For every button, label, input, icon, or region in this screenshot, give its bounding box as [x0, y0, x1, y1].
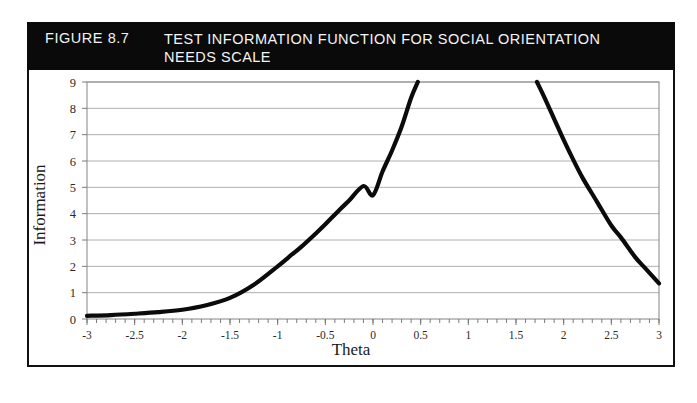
curve-path [87, 82, 418, 316]
gridlines-group [87, 82, 659, 293]
x-tick-label: 2 [561, 329, 567, 341]
figure-container: FIGURE 8.7 TEST INFORMATION FUNCTION FOR… [27, 22, 675, 367]
y-tick-label: 4 [70, 207, 77, 221]
x-tick-labels: -3-2.5-2-1.5-1-0.500.511.522.53 [82, 329, 662, 341]
x-tick-label: 2.5 [604, 329, 619, 341]
x-tick-label: 3 [656, 329, 662, 341]
x-axis-title: Theta [332, 340, 371, 359]
plot-frame [87, 82, 659, 319]
x-tick-label: -2.5 [126, 329, 144, 341]
x-tick-label: 1 [465, 329, 471, 341]
y-tick-label: 2 [70, 260, 76, 274]
y-tick-labels: 0123456789 [70, 76, 77, 327]
chart-plot-area: 0123456789 -3-2.5-2-1.5-1-0.500.511.522.… [29, 70, 673, 363]
y-tick-label: 3 [70, 234, 76, 248]
x-tick-label: 0.5 [413, 329, 428, 341]
information-curve [87, 82, 659, 316]
y-tick-label: 8 [70, 102, 76, 116]
x-tick-label: -1.5 [221, 329, 239, 341]
x-tick-label: 1.5 [509, 329, 524, 341]
x-tick-label: -1 [273, 329, 283, 341]
y-tick-label: 6 [70, 155, 76, 169]
x-tick-label: -2 [178, 329, 188, 341]
figure-body: 0123456789 -3-2.5-2-1.5-1-0.500.511.522.… [27, 70, 675, 367]
y-tick-label: 9 [70, 76, 76, 90]
x-tick-label: 0 [370, 329, 376, 341]
y-tick-label: 0 [70, 313, 76, 327]
figure-number-label: FIGURE 8.7 [45, 30, 129, 46]
y-tick-label: 5 [70, 181, 76, 195]
y-tick-label: 1 [70, 286, 76, 300]
y-tick-label: 7 [70, 128, 76, 142]
x-tick-label: -3 [82, 329, 92, 341]
curve-path [537, 82, 659, 283]
axis-frame [87, 82, 659, 319]
test-information-chart: 0123456789 -3-2.5-2-1.5-1-0.500.511.522.… [29, 70, 673, 363]
figure-title: TEST INFORMATION FUNCTION FOR SOCIAL ORI… [164, 30, 654, 66]
y-major-tickmarks [82, 82, 87, 319]
figure-header: FIGURE 8.7 TEST INFORMATION FUNCTION FOR… [27, 22, 675, 70]
y-axis-title: Information [30, 164, 49, 246]
